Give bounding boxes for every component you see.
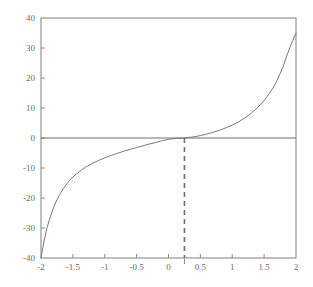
y-tick-label: 40 xyxy=(26,13,36,23)
chart-figure: -40-30-20-10010203040 -2-1.5-1-0.500.511… xyxy=(0,0,313,287)
chart-background xyxy=(0,0,313,287)
x-tick-label: -2 xyxy=(37,262,45,272)
x-tick-label: 1.5 xyxy=(259,262,271,272)
x-tick-label: -1.5 xyxy=(66,262,81,272)
x-tick-label: 0.5 xyxy=(195,262,207,272)
x-tick-label: 1 xyxy=(230,262,235,272)
x-tick-label: 2 xyxy=(294,262,299,272)
y-tick-label: 20 xyxy=(26,73,36,83)
line-chart-svg: -40-30-20-10010203040 -2-1.5-1-0.500.511… xyxy=(0,0,313,287)
x-tick-label: -1 xyxy=(101,262,109,272)
y-tick-label: 10 xyxy=(26,103,36,113)
y-tick-label: -40 xyxy=(23,253,35,263)
y-tick-label: -30 xyxy=(23,223,35,233)
x-axis-tick-labels: -2-1.5-1-0.500.511.52 xyxy=(37,262,298,272)
y-tick-label: -20 xyxy=(23,193,35,203)
x-tick-label: 0 xyxy=(166,262,171,272)
y-tick-label: 0 xyxy=(31,133,36,143)
y-tick-label: 30 xyxy=(26,43,36,53)
y-tick-label: -10 xyxy=(23,163,35,173)
x-tick-label: -0.5 xyxy=(130,262,145,272)
